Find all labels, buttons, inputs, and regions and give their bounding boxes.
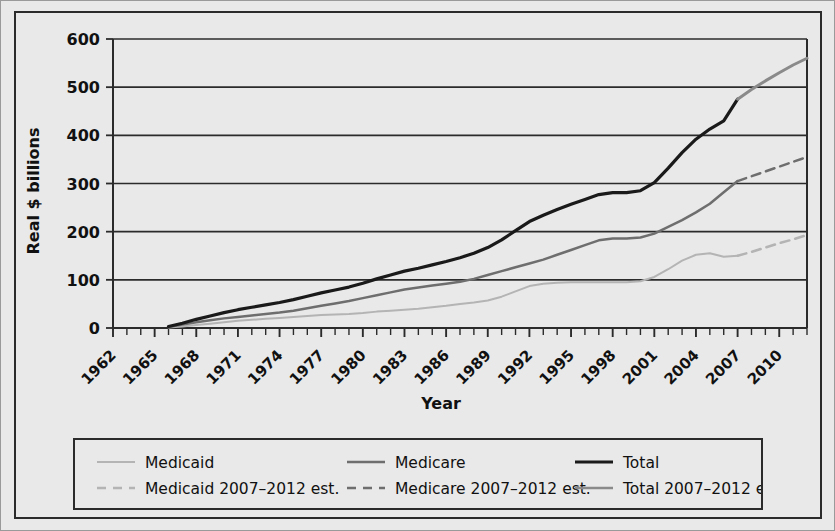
x-tick-label: 1962 xyxy=(78,346,120,388)
x-tick-label: 1971 xyxy=(202,346,244,388)
legend-label: Medicare xyxy=(395,454,466,472)
y-axis-title: Real $ billions xyxy=(24,127,43,254)
figure-container: 0100200300400500600 19621965196819711974… xyxy=(0,0,835,531)
y-tick-label: 200 xyxy=(67,223,100,242)
x-tick-label: 1989 xyxy=(452,346,494,388)
y-tick-label: 600 xyxy=(67,30,100,49)
series-line xyxy=(738,235,807,256)
x-axis-title: Year xyxy=(420,394,461,413)
x-tick-label: 1983 xyxy=(369,346,411,388)
x-tick-label: 1974 xyxy=(244,346,286,388)
legend-label: Medicare 2007–2012 est. xyxy=(395,480,591,498)
series-line xyxy=(738,58,807,99)
x-axis-ticks xyxy=(113,328,807,337)
x-tick-label: 2001 xyxy=(619,346,661,388)
y-tick-label: 0 xyxy=(89,319,100,338)
x-tick-label: 1995 xyxy=(536,346,578,388)
legend-label: Medicaid 2007–2012 est. xyxy=(145,480,339,498)
x-tick-label: 1992 xyxy=(494,346,536,388)
y-tick-label: 100 xyxy=(67,271,100,290)
gridlines xyxy=(113,39,807,280)
y-tick-label: 500 xyxy=(67,78,100,97)
series-line xyxy=(738,157,807,181)
x-tick-label: 1968 xyxy=(161,346,203,388)
x-tick-label: 2004 xyxy=(661,346,703,388)
x-tick-label: 2007 xyxy=(702,346,744,388)
x-tick-label: 1998 xyxy=(577,346,619,388)
y-tick-label: 400 xyxy=(67,126,100,145)
x-tick-label: 1980 xyxy=(327,346,369,388)
chart-legend: MedicaidMedicareTotalMedicaid 2007–2012 … xyxy=(73,438,763,510)
y-axis-ticks xyxy=(106,39,113,328)
legend-label: Medicaid xyxy=(145,454,214,472)
series-line xyxy=(169,99,738,326)
x-axis-tick-labels: 1962196519681971197419771980198319861989… xyxy=(78,346,786,388)
x-tick-label: 1986 xyxy=(411,346,453,388)
y-tick-label: 300 xyxy=(67,175,100,194)
legend-label: Total 2007–2012 est. xyxy=(622,480,761,498)
data-series xyxy=(169,58,807,327)
x-tick-label: 2010 xyxy=(744,346,786,388)
y-axis-tick-labels: 0100200300400500600 xyxy=(67,30,100,338)
legend-content: MedicaidMedicareTotalMedicaid 2007–2012 … xyxy=(75,440,761,508)
legend-label: Total xyxy=(622,454,659,472)
x-tick-label: 1977 xyxy=(286,346,328,388)
x-tick-label: 1965 xyxy=(119,346,161,388)
